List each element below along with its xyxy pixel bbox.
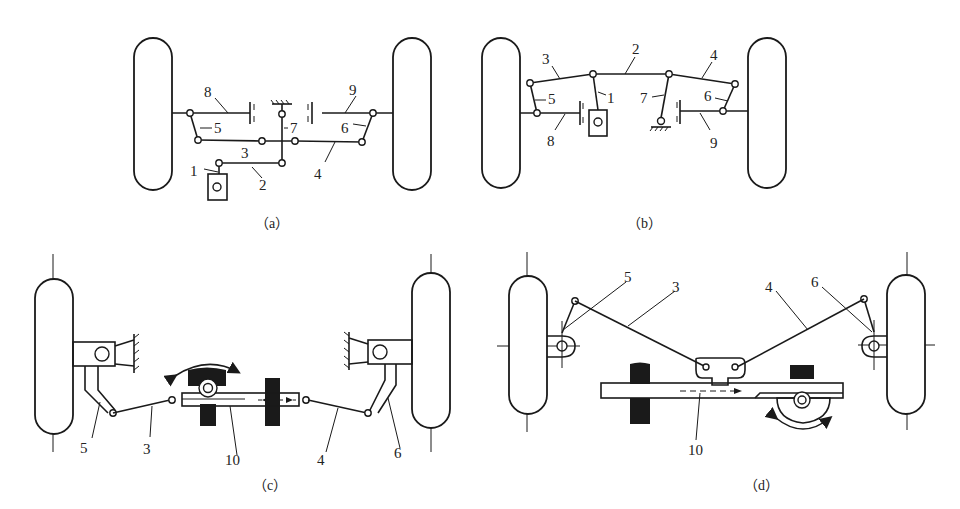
label-3: 3 bbox=[241, 145, 249, 161]
label-5: 5 bbox=[80, 440, 88, 456]
label-7: 7 bbox=[640, 90, 648, 106]
right-wheel bbox=[412, 273, 450, 428]
label-4: 4 bbox=[765, 279, 773, 295]
panel-b-caption: （b） bbox=[627, 216, 662, 231]
panel-b: 3 2 4 5 1 7 6 8 9 （b） bbox=[482, 38, 786, 231]
label-5: 5 bbox=[214, 120, 222, 136]
label-8: 8 bbox=[547, 133, 555, 149]
label-10: 10 bbox=[688, 442, 703, 458]
label-7: 7 bbox=[290, 120, 298, 136]
label-6: 6 bbox=[341, 120, 349, 136]
left-wheel bbox=[482, 38, 520, 188]
right-wheel bbox=[748, 38, 786, 188]
label-2: 2 bbox=[632, 41, 640, 57]
label-1: 1 bbox=[190, 163, 198, 179]
label-3: 3 bbox=[672, 279, 680, 295]
label-6: 6 bbox=[704, 88, 712, 104]
label-5: 5 bbox=[548, 91, 556, 107]
label-2: 2 bbox=[259, 177, 267, 193]
left-wheel bbox=[35, 279, 73, 434]
panel-d-caption: （d） bbox=[744, 478, 779, 493]
panel-a: 8 9 5 6 7 3 2 4 1 （a） bbox=[134, 38, 431, 231]
label-6: 6 bbox=[394, 445, 402, 461]
label-6: 6 bbox=[811, 274, 819, 290]
panel-a-caption: （a） bbox=[255, 216, 289, 231]
label-8: 8 bbox=[204, 84, 212, 100]
label-3: 3 bbox=[542, 51, 550, 67]
steering-linkage-figure: 8 9 5 6 7 3 2 4 1 （a） bbox=[0, 0, 960, 509]
panel-c-caption: （c） bbox=[253, 478, 287, 493]
label-3: 3 bbox=[143, 441, 151, 457]
panel-c: 5 3 10 4 6 （c） bbox=[35, 254, 450, 493]
label-9: 9 bbox=[349, 82, 357, 98]
label-4: 4 bbox=[710, 47, 718, 63]
left-wheel bbox=[509, 276, 547, 414]
label-5: 5 bbox=[624, 269, 632, 285]
left-wheel bbox=[134, 38, 172, 190]
label-1: 1 bbox=[607, 90, 615, 106]
label-4: 4 bbox=[314, 166, 322, 182]
label-4: 4 bbox=[317, 452, 325, 468]
label-10: 10 bbox=[225, 452, 240, 468]
panel-d: 5 3 4 6 10 （d） bbox=[497, 252, 935, 493]
right-wheel bbox=[887, 275, 925, 414]
right-wheel bbox=[393, 38, 431, 190]
label-9: 9 bbox=[710, 135, 718, 151]
